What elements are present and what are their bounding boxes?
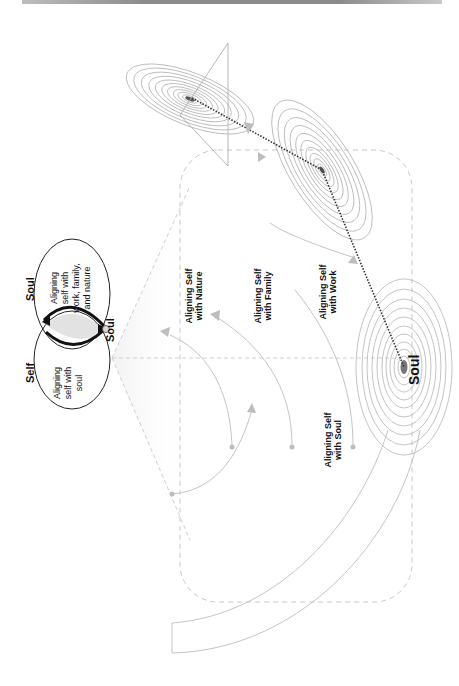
svg-text:Aligning Self: Aligning Self bbox=[253, 267, 263, 323]
label-family: Aligning Self with Family bbox=[253, 267, 273, 323]
svg-text:and nature: and nature bbox=[82, 266, 92, 309]
svg-text:Aligning: Aligning bbox=[49, 272, 59, 304]
label-nature: Aligning Self with Nature bbox=[184, 267, 204, 323]
svg-text:with Soul: with Soul bbox=[333, 420, 343, 461]
label-soul: Aligning Self with Soul bbox=[323, 411, 343, 467]
label-work: Aligning Self with Work bbox=[318, 263, 338, 319]
svg-text:self with: self with bbox=[60, 272, 70, 305]
svg-text:with Work: with Work bbox=[328, 270, 338, 315]
venn-left-text: Aligning self with soul bbox=[52, 367, 84, 400]
svg-text:work, family,: work, family, bbox=[71, 263, 81, 313]
svg-text:Aligning: Aligning bbox=[52, 367, 62, 399]
outer-band bbox=[172, 430, 420, 653]
contour-nature bbox=[117, 49, 263, 148]
svg-text:soul: soul bbox=[74, 375, 84, 392]
svg-text:self with: self with bbox=[63, 367, 73, 400]
venn-right-text: Aligning self with work, family, and nat… bbox=[49, 263, 92, 313]
venn-self-title: Self bbox=[24, 362, 36, 383]
triangle-marker bbox=[180, 43, 228, 166]
self-soul-alignment-diagram: Self Soul Soul Aligning self with soul A… bbox=[0, 0, 459, 686]
contour-family-work bbox=[252, 85, 391, 255]
svg-text:with Nature: with Nature bbox=[194, 271, 204, 321]
svg-text:Aligning Self: Aligning Self bbox=[323, 411, 333, 467]
svg-text:Aligning Self: Aligning Self bbox=[184, 267, 194, 323]
svg-text:Aligning Self: Aligning Self bbox=[318, 263, 328, 319]
soul-node-label: Soul bbox=[406, 355, 422, 385]
svg-text:with Family: with Family bbox=[263, 271, 273, 321]
alignment-path bbox=[192, 98, 404, 367]
projection-cone bbox=[112, 186, 420, 540]
venn-soul-title: Soul bbox=[24, 277, 36, 301]
venn-center-soul: Soul bbox=[104, 318, 116, 342]
